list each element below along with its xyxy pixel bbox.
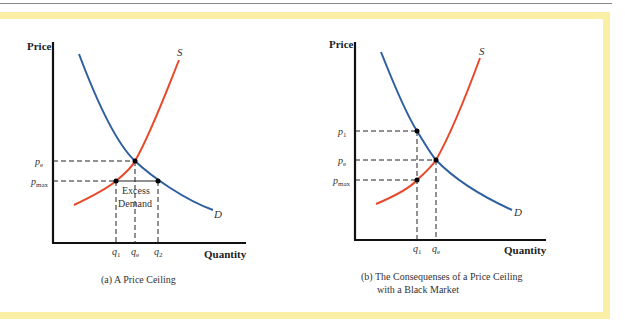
chart-b-black-market-point xyxy=(415,129,420,134)
chart-b: Price Quantity S D p1 pe pmax q1 qe (b) … xyxy=(329,38,547,295)
chart-a-xtick-q1: q1 xyxy=(112,246,121,259)
chart-a-demand-at-ceiling-point xyxy=(156,179,161,184)
chart-b-guides xyxy=(355,131,436,240)
chart-a-caption: (a) A Price Ceiling xyxy=(101,274,176,286)
chart-a-excess-label: Excess xyxy=(122,185,150,196)
chart-b-xtick-q1: q1 xyxy=(413,243,422,256)
chart-a-supply-at-ceiling-point xyxy=(114,179,119,184)
chart-b-supply-at-ceiling-point xyxy=(415,178,420,183)
chart-a-equilibrium-point xyxy=(133,159,138,164)
chart-a-xtick-qe: qe xyxy=(131,246,139,259)
chart-a-xtick-q2: q2 xyxy=(154,246,163,259)
chart-b-demand-label: D xyxy=(513,206,522,218)
chart-b-ytick-pe: pe xyxy=(337,155,346,168)
chart-a-y-axis-label: Price xyxy=(27,40,52,52)
chart-b-xtick-qe: qe xyxy=(432,243,440,256)
chart-b-ytick-p1: p1 xyxy=(337,126,347,139)
chart-b-caption-line2: with a Black Market xyxy=(377,284,459,295)
chart-b-supply-label: S xyxy=(479,45,485,57)
chart-a-x-axis-label: Quantity xyxy=(204,248,247,260)
figure: Price Quantity S D pe pmax q1 qe q2 Exce… xyxy=(0,0,625,320)
chart-b-demand-curve xyxy=(381,52,512,210)
chart-a: Price Quantity S D pe pmax q1 qe q2 Exce… xyxy=(27,40,247,286)
chart-a-ytick-pe: pe xyxy=(34,156,43,169)
chart-a-supply-label: S xyxy=(177,46,183,58)
chart-b-caption-line1: (b) The Consequenses of a Price Ceiling xyxy=(361,271,522,283)
chart-a-ytick-pmax: pmax xyxy=(30,176,49,189)
chart-b-equilibrium-point xyxy=(434,158,439,163)
chart-b-x-axis-label: Quantity xyxy=(504,244,547,256)
chart-b-ytick-pmax: pmax xyxy=(332,175,351,188)
chart-a-demand-annot-label: Demand xyxy=(118,198,152,209)
chart-b-y-axis-label: Price xyxy=(329,38,354,50)
chart-a-demand-label: D xyxy=(213,208,222,220)
